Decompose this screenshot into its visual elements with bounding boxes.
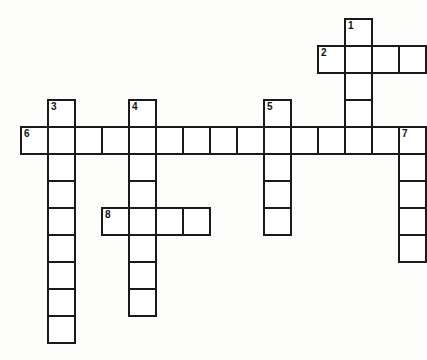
crossword-cell[interactable]	[182, 207, 211, 236]
cell-number-7: 7	[402, 128, 407, 139]
crossword-cell[interactable]	[263, 126, 292, 155]
crossword-cell[interactable]	[47, 234, 76, 263]
crossword-cell[interactable]	[398, 153, 427, 182]
crossword-cell[interactable]	[398, 234, 427, 263]
crossword-cell[interactable]: 5	[263, 99, 292, 128]
crossword-cell[interactable]	[155, 207, 184, 236]
crossword-cell[interactable]	[74, 126, 103, 155]
crossword-cell[interactable]	[263, 180, 292, 209]
crossword-cell[interactable]	[47, 126, 76, 155]
crossword-cell[interactable]	[128, 126, 157, 155]
crossword-cell[interactable]	[128, 153, 157, 182]
cell-number-4: 4	[132, 101, 137, 112]
crossword-cell[interactable]	[128, 207, 157, 236]
cell-number-6: 6	[24, 128, 29, 139]
crossword-cell[interactable]	[101, 126, 130, 155]
crossword-cell[interactable]	[47, 288, 76, 317]
cell-number-2: 2	[321, 47, 326, 58]
crossword-cell[interactable]	[47, 315, 76, 344]
cell-number-5: 5	[267, 101, 272, 112]
crossword-cell[interactable]: 3	[47, 99, 76, 128]
cell-number-8: 8	[105, 209, 110, 220]
crossword-cell[interactable]	[398, 180, 427, 209]
crossword-cell[interactable]	[182, 126, 211, 155]
crossword-cell[interactable]	[263, 153, 292, 182]
crossword-cell[interactable]	[47, 153, 76, 182]
crossword-cell[interactable]	[128, 180, 157, 209]
crossword-cell[interactable]	[209, 126, 238, 155]
crossword-cell[interactable]	[344, 126, 373, 155]
crossword-cell[interactable]: 4	[128, 99, 157, 128]
crossword-cell[interactable]	[47, 261, 76, 290]
crossword-cell[interactable]	[371, 126, 400, 155]
crossword-cell[interactable]: 7	[398, 126, 427, 155]
crossword-cell[interactable]	[344, 72, 373, 101]
crossword-cell[interactable]	[290, 126, 319, 155]
crossword-cell[interactable]	[236, 126, 265, 155]
crossword-cell[interactable]: 2	[317, 45, 346, 74]
crossword-cell[interactable]	[155, 126, 184, 155]
crossword-cell[interactable]	[317, 126, 346, 155]
crossword-cell[interactable]	[371, 45, 400, 74]
cell-number-3: 3	[51, 101, 56, 112]
crossword-cell[interactable]: 1	[344, 18, 373, 47]
crossword-cell[interactable]	[344, 45, 373, 74]
crossword-cell[interactable]: 8	[101, 207, 130, 236]
crossword-cell[interactable]	[263, 207, 292, 236]
crossword-cell[interactable]	[398, 207, 427, 236]
crossword-cell[interactable]	[128, 261, 157, 290]
cell-number-1: 1	[348, 20, 353, 31]
crossword-cell[interactable]	[47, 180, 76, 209]
crossword-cell[interactable]: 6	[20, 126, 49, 155]
crossword-cell[interactable]	[128, 234, 157, 263]
crossword-cell[interactable]	[344, 99, 373, 128]
crossword-cell[interactable]	[47, 207, 76, 236]
crossword-cell[interactable]	[128, 288, 157, 317]
crossword-cell[interactable]	[398, 45, 427, 74]
